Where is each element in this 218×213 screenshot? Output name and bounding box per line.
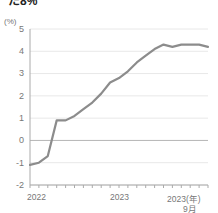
- x-tick-2023: 2023: [110, 192, 129, 202]
- y-tick-0: 0: [2, 135, 24, 145]
- y-tick-minus1: -1: [2, 158, 24, 168]
- y-tick-5: 5: [2, 24, 24, 34]
- y-tick-2: 2: [2, 91, 24, 101]
- y-tick-4: 4: [2, 46, 24, 56]
- data-series-line: [30, 45, 208, 165]
- y-tick-minus2: -2: [2, 180, 24, 190]
- chart-root: た8% (%) 5 4 3 2 1 0 -1 -2 2022 2023 2023…: [0, 0, 218, 213]
- y-tick-1: 1: [2, 113, 24, 123]
- x-axis-ticks: [30, 185, 208, 188]
- x-tick-2022: 2022: [27, 192, 46, 202]
- line-chart-plot: [0, 0, 218, 213]
- x-tick-month-sub: 9月: [183, 202, 197, 213]
- y-tick-3: 3: [2, 68, 24, 78]
- gridlines: [30, 29, 208, 185]
- axis-lines: [30, 29, 208, 185]
